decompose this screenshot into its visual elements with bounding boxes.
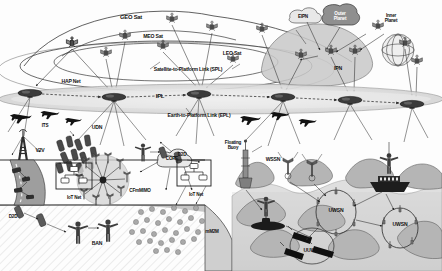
diagram-canvas: GEO Sat MEO Sat LEO Sat Satellite-to-Pla… bbox=[0, 0, 442, 271]
label-cfmmimo: CFmMIMO bbox=[129, 189, 150, 194]
label-ban: BAN bbox=[92, 241, 102, 246]
label-ipn: IPN bbox=[334, 66, 342, 71]
network-architecture-illustration bbox=[0, 0, 442, 271]
label-outer-planet: Outer Planet bbox=[334, 12, 347, 22]
label-satellite-to-platform-link: Satellite-to-Platform Link (SPL) bbox=[154, 67, 223, 72]
inner-planet-globe bbox=[382, 34, 414, 66]
label-mm2m: mM2M bbox=[205, 230, 219, 235]
label-hap-net: HAP Net bbox=[62, 79, 81, 84]
label-uwsn-2: UWSN bbox=[393, 222, 408, 227]
label-eipn: EIPN bbox=[298, 15, 308, 20]
label-iot-net-right: IoT Net bbox=[189, 193, 203, 198]
label-udn: UDN bbox=[92, 125, 102, 130]
label-inner-planet: Inner Planet bbox=[385, 14, 398, 24]
sea-layer bbox=[232, 139, 442, 271]
label-d2d-left: D2D bbox=[9, 215, 18, 220]
label-leo-sat: LEO Sat bbox=[223, 51, 241, 56]
label-its: ITS bbox=[42, 124, 49, 129]
label-wssn: WSSN bbox=[266, 157, 280, 162]
label-iot-net-left: IoT Net bbox=[67, 196, 81, 201]
label-d2d-right: D2D bbox=[178, 153, 187, 158]
label-meo-sat: MEO Sat bbox=[143, 34, 163, 39]
label-floating-buoy: Floating Buoy bbox=[225, 141, 241, 151]
label-ipl: IPL bbox=[156, 93, 164, 99]
label-uwsn-1: UWSN bbox=[329, 208, 344, 213]
label-core: CORE bbox=[166, 157, 178, 162]
label-v2v: V2V bbox=[35, 148, 44, 153]
label-earth-to-platform-link: Earth-to-Platform Link (EPL) bbox=[168, 113, 231, 118]
hap-network-band bbox=[0, 84, 442, 114]
label-geo-sat: GEO Sat bbox=[120, 14, 142, 20]
label-uuwv: UUWV bbox=[304, 248, 319, 253]
